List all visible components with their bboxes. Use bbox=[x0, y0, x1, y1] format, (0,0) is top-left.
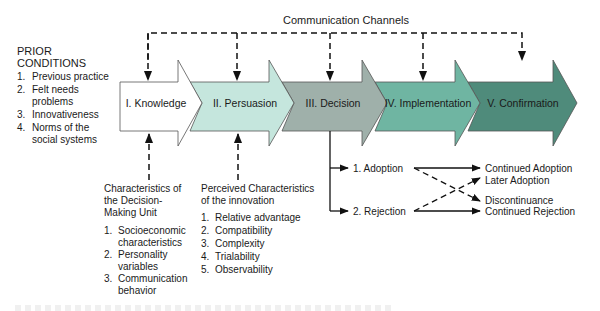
prior-conditions-heading: PRIOR bbox=[17, 45, 52, 57]
list-item: Felt needs bbox=[32, 84, 79, 95]
list-item: Trialability bbox=[215, 251, 260, 262]
list-number: 3. bbox=[104, 273, 112, 284]
section-heading: the Decision- bbox=[104, 195, 162, 206]
list-number: 2. bbox=[104, 249, 112, 260]
outcome-adoption: 1. Adoption bbox=[353, 163, 403, 174]
list-number: 4. bbox=[17, 122, 25, 133]
communication-channels-connector bbox=[148, 33, 522, 80]
list-item: Innovativeness bbox=[32, 109, 99, 120]
list-item: Norms of the bbox=[32, 122, 90, 133]
outcome-discontinuance: Discontinuance bbox=[485, 195, 554, 206]
outcome-continued-rejection: Continued Rejection bbox=[485, 206, 575, 217]
list-number: 1. bbox=[201, 212, 209, 223]
outcome-continued-adoption: Continued Adoption bbox=[485, 163, 572, 174]
outcome-rejection: 2. Rejection bbox=[353, 206, 406, 217]
stage-label-knowledge: I. Knowledge bbox=[126, 97, 187, 109]
prior-conditions: PRIOR CONDITIONS 1. Previous practice 2.… bbox=[17, 45, 109, 145]
section-heading: of the innovation bbox=[201, 195, 274, 206]
list-item: problems bbox=[32, 96, 73, 107]
list-item: Personality bbox=[118, 249, 167, 260]
list-number: 2. bbox=[201, 225, 209, 236]
list-number: 1. bbox=[104, 225, 112, 236]
section-heading: Perceived Characteristics bbox=[201, 183, 314, 194]
section-heading: Characteristics of bbox=[104, 183, 181, 194]
list-item: social systems bbox=[32, 134, 97, 145]
stage-label-implementation: IV. Implementation bbox=[385, 97, 472, 109]
decision-making-unit-characteristics: Characteristics of the Decision- Making … bbox=[104, 183, 187, 296]
list-item: Communication bbox=[118, 273, 187, 284]
list-item: behavior bbox=[118, 285, 157, 296]
characteristics-connectors bbox=[149, 134, 238, 180]
stage-label-decision: III. Decision bbox=[306, 97, 361, 109]
list-number: 3. bbox=[201, 238, 209, 249]
stage-label-persuasion: II. Persuasion bbox=[213, 97, 277, 109]
list-item: Observability bbox=[215, 264, 273, 275]
list-item: Relative advantage bbox=[215, 212, 301, 223]
section-heading: Making Unit bbox=[104, 207, 157, 218]
cropped-caption bbox=[15, 305, 395, 311]
communication-channels-label: Communication Channels bbox=[283, 14, 409, 26]
stage-label-confirmation: V. Confirmation bbox=[487, 97, 559, 109]
list-item: characteristics bbox=[118, 237, 182, 248]
prior-conditions-heading: CONDITIONS bbox=[17, 57, 86, 69]
list-number: 5. bbox=[201, 264, 209, 275]
list-item: Socioeconomic bbox=[118, 225, 186, 236]
perceived-innovation-characteristics: Perceived Characteristics of the innovat… bbox=[201, 183, 314, 275]
innovation-decision-process-diagram: Communication Channels I. Knowledge II. … bbox=[0, 0, 600, 311]
list-item: Complexity bbox=[215, 238, 264, 249]
list-number: 2. bbox=[17, 84, 25, 95]
list-item: variables bbox=[118, 261, 158, 272]
list-item: Previous practice bbox=[32, 71, 109, 82]
list-number: 3. bbox=[17, 109, 25, 120]
outcome-connectors bbox=[414, 168, 480, 211]
list-number: 4. bbox=[201, 251, 209, 262]
decision-branch-connector bbox=[330, 131, 348, 211]
outcome-later-adoption: Later Adoption bbox=[485, 175, 550, 186]
list-number: 1. bbox=[17, 71, 25, 82]
list-item: Compatibility bbox=[215, 225, 272, 236]
